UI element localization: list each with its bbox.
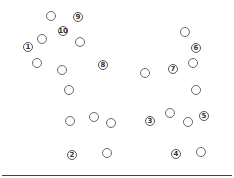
numbered-circle-9[interactable]: 9 <box>73 12 83 22</box>
baseline-divider <box>2 175 232 176</box>
empty-circle[interactable] <box>32 58 42 68</box>
empty-circle[interactable] <box>64 85 74 95</box>
empty-circle[interactable] <box>102 148 112 158</box>
numbered-circle-10[interactable]: 10 <box>58 26 68 36</box>
empty-circle[interactable] <box>57 65 67 75</box>
empty-circle[interactable] <box>46 11 56 21</box>
numbered-circle-5[interactable]: 5 <box>199 111 209 121</box>
numbered-circle-1[interactable]: 1 <box>23 42 33 52</box>
numbered-circle-7[interactable]: 7 <box>168 64 178 74</box>
numbered-circle-6[interactable]: 6 <box>191 43 201 53</box>
empty-circle[interactable] <box>37 34 47 44</box>
empty-circle[interactable] <box>65 116 75 126</box>
empty-circle[interactable] <box>106 118 116 128</box>
game-board: 91018673524 <box>0 0 234 178</box>
empty-circle[interactable] <box>165 108 175 118</box>
empty-circle[interactable] <box>191 85 201 95</box>
numbered-circle-2[interactable]: 2 <box>67 150 77 160</box>
empty-circle[interactable] <box>140 68 150 78</box>
numbered-circle-3[interactable]: 3 <box>145 116 155 126</box>
empty-circle[interactable] <box>188 58 198 68</box>
numbered-circle-8[interactable]: 8 <box>98 60 108 70</box>
empty-circle[interactable] <box>183 117 193 127</box>
empty-circle[interactable] <box>196 147 206 157</box>
empty-circle[interactable] <box>89 112 99 122</box>
empty-circle[interactable] <box>75 37 85 47</box>
numbered-circle-4[interactable]: 4 <box>171 149 181 159</box>
empty-circle[interactable] <box>180 27 190 37</box>
